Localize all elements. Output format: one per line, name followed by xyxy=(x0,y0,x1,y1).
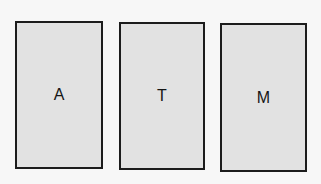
card-label: T xyxy=(157,87,167,105)
card-a: A xyxy=(15,21,103,169)
card-label: A xyxy=(54,86,65,104)
card-label: M xyxy=(257,89,270,107)
card-t: T xyxy=(119,22,205,170)
card-m: M xyxy=(220,23,307,172)
